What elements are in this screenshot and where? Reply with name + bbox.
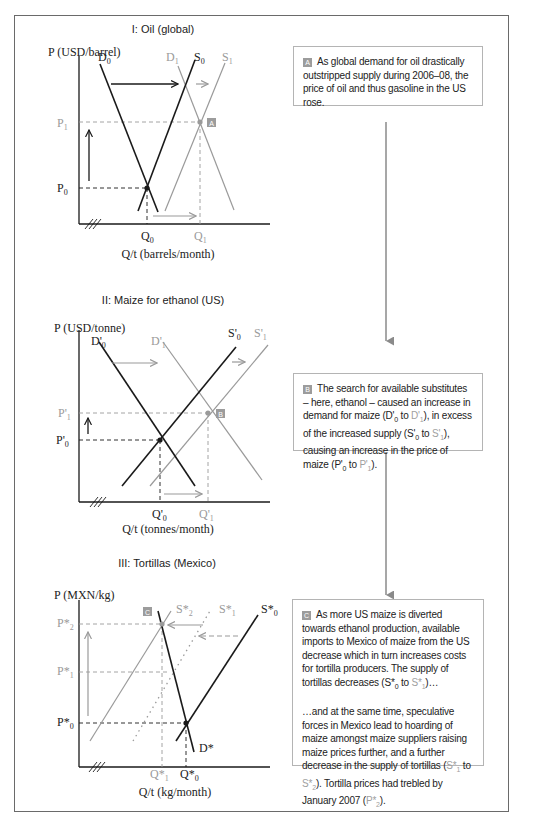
tick-q1: Q*1 (150, 767, 169, 783)
tick-q1: Q'1 (199, 507, 214, 523)
tick-q0: Q'0 (152, 507, 167, 523)
label-d0: D'0 (91, 334, 106, 350)
demand-curve-d (158, 611, 194, 752)
label-d: D* (199, 741, 214, 755)
supply-curve-s1 (165, 63, 225, 211)
note-c-text: ). (380, 795, 386, 806)
label-s0: S*0 (261, 602, 278, 618)
label-s1: S*1 (219, 602, 236, 618)
tick-p0: P'0 (56, 433, 69, 449)
note-c-gray: S* (302, 778, 312, 789)
supply-curve-s1 (150, 345, 268, 486)
note-a-badge: A (303, 58, 312, 67)
equilibrium-point-1 (197, 119, 202, 124)
note-a-text: As global demand for oil drastically out… (303, 56, 468, 108)
note-c-text: to (398, 677, 411, 688)
note-c-gray: S* (411, 677, 421, 688)
note-c-text: …and at the same time, speculative force… (302, 706, 467, 771)
note-b-gray: D' (411, 410, 420, 421)
note-c-gray: P* (366, 795, 376, 806)
panel-tortillas: III: Tortillas (Mexico) P (MXN/kg) C S*2… (54, 557, 278, 799)
tick-p1: P1 (57, 116, 68, 132)
label-s1: S'1 (254, 326, 267, 342)
note-c-paragraph-2: …and at the same time, speculative force… (302, 705, 474, 812)
note-c-text: As more US maize is diverted towards eth… (302, 609, 469, 688)
note-c-paragraph-1: CAs more US maize is diverted towards et… (302, 608, 474, 693)
equilibrium-point-0 (144, 185, 149, 190)
note-c-gray: S* (446, 760, 456, 771)
note-b: BThe search for available substitutes – … (293, 373, 483, 451)
supply-curve-s2 (90, 611, 171, 741)
label-s1: S1 (222, 50, 233, 66)
panel-oil: I: Oil (global) P (USD/barrel) A D0 D1 (48, 23, 270, 261)
panel-maize: II: Maize for ethanol (US) P (USD/tonne)… (54, 294, 270, 536)
note-a: AAs global demand for oil drastically ou… (293, 46, 483, 106)
tick-p1: P'1 (58, 406, 71, 422)
equilibrium-point-1 (205, 410, 210, 415)
note-b-badge: B (303, 385, 312, 394)
note-b-text: to (398, 410, 411, 421)
note-c-text: )… (425, 677, 438, 688)
marker-a-badge: A (207, 118, 216, 127)
tick-q1: Q1 (194, 229, 207, 245)
equilibrium-point-0 (183, 720, 188, 725)
note-b-text: to (419, 428, 432, 439)
x-axis-label: Q/t (tonnes/month) (122, 522, 214, 536)
panel-title: II: Maize for ethanol (US) (102, 294, 224, 306)
x-axis-label: Q/t (kg/month) (139, 785, 211, 799)
tick-p1: P*1 (57, 664, 74, 680)
equilibrium-point-0 (157, 437, 162, 442)
label-s2: S*2 (176, 602, 193, 618)
note-b-gray: S' (432, 428, 440, 439)
note-b-text: to (346, 459, 359, 470)
tick-p0: P*0 (57, 715, 74, 731)
tick-q0: Q*0 (180, 767, 199, 783)
supply-curve-s1 (133, 611, 210, 741)
svg-text:B: B (218, 411, 223, 418)
label-s0: S0 (194, 50, 205, 66)
marker-b-badge: B (216, 409, 225, 418)
marker-c-badge: C (143, 607, 152, 616)
panel-title: I: Oil (global) (132, 23, 194, 35)
svg-text:C: C (145, 609, 150, 616)
note-c-badge: C (302, 611, 311, 620)
label-d1: D'1 (151, 334, 166, 350)
equilibrium-point-2 (159, 621, 164, 626)
panel-title: III: Tortillas (Mexico) (118, 557, 216, 569)
y-axis-label: P (MXN/kg) (54, 588, 115, 602)
tick-p2: P*2 (57, 616, 74, 632)
tick-p0: P0 (57, 181, 68, 197)
label-d1: D1 (166, 50, 179, 66)
note-b-gray: P' (359, 459, 367, 470)
note-c: CAs more US maize is diverted towards et… (292, 599, 484, 766)
demand-curve-d1 (178, 66, 234, 210)
demand-curve-d0 (100, 64, 158, 212)
x-axis-label: Q/t (barrels/month) (122, 247, 215, 261)
tick-q0: Q0 (141, 229, 154, 245)
note-b-text: ). (371, 459, 377, 470)
note-c-text: to (460, 760, 471, 771)
y-axis-label: P (USD/tonne) (54, 321, 125, 335)
label-s0: S'0 (228, 326, 241, 342)
svg-text:A: A (209, 120, 214, 127)
